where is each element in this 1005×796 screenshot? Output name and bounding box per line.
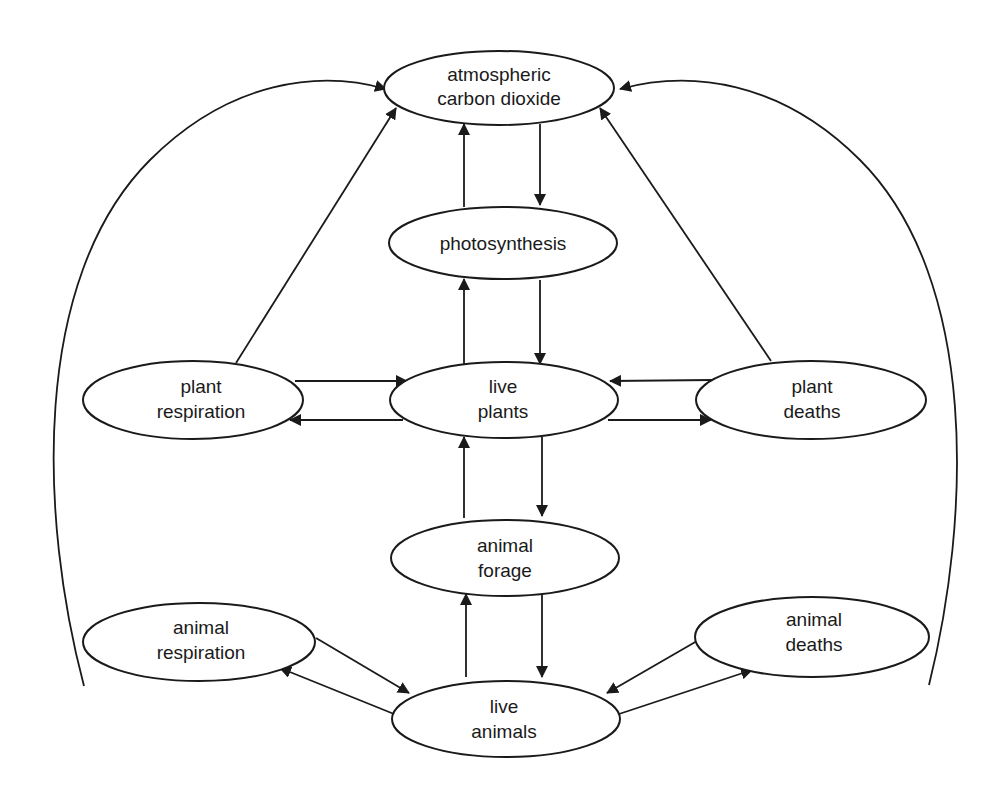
- node-photosynthesis: photosynthesis: [389, 207, 617, 279]
- node-animal-deaths: animal deaths: [695, 597, 929, 677]
- edge-plantdeath-to-liveplants: [610, 380, 712, 381]
- node-animal-respiration: animal respiration: [83, 603, 315, 681]
- node-label-line1: live: [490, 696, 519, 717]
- node-live-animals: live animals: [392, 681, 620, 757]
- node-plant-respiration: plant respiration: [83, 361, 303, 439]
- edge-animdeath-to-liveanim: [607, 641, 697, 693]
- node-live-plants: live plants: [390, 362, 618, 438]
- node-label-line2: deaths: [785, 634, 842, 655]
- node-atmospheric-co2: atmospheric carbon dioxide: [384, 51, 614, 125]
- edge-plantdeath-to-co2: [600, 108, 771, 361]
- node-label-line1: photosynthesis: [440, 233, 567, 254]
- node-label-line2: respiration: [157, 642, 246, 663]
- node-label-line1: live: [489, 376, 518, 397]
- node-label-line2: forage: [478, 560, 532, 581]
- edge-animresp-to-liveanim: [316, 638, 409, 693]
- node-label-line1: animal: [477, 535, 533, 556]
- node-label-line1: animal: [173, 617, 229, 638]
- node-label-line1: plant: [180, 376, 222, 397]
- carbon-cycle-diagram: atmospheric carbon dioxide photosynthesi…: [0, 0, 1005, 796]
- edge-plantresp-to-co2: [236, 108, 396, 363]
- node-label-line2: respiration: [157, 401, 246, 422]
- node-label-line2: deaths: [783, 401, 840, 422]
- node-label-line2: plants: [478, 401, 529, 422]
- edge-liveanim-to-animdeath: [619, 670, 752, 714]
- node-animal-forage: animal forage: [391, 520, 619, 596]
- node-label-line1: animal: [786, 609, 842, 630]
- node-label-line2: animals: [471, 721, 536, 742]
- node-label-line2: carbon dioxide: [437, 88, 561, 109]
- node-label-line1: plant: [791, 376, 833, 397]
- node-plant-deaths: plant deaths: [696, 361, 926, 439]
- node-label-line1: atmospheric: [447, 64, 551, 85]
